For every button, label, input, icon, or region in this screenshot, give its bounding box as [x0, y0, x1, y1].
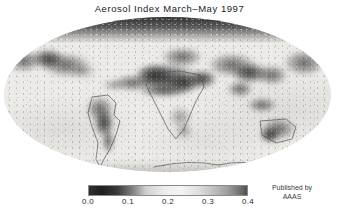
- aerosol-index-colorbar: [88, 185, 248, 196]
- colorbar-tick-0: 0.0: [82, 197, 94, 206]
- mollweide-projection-ellipse: [4, 17, 331, 172]
- colorbar-gradient: [88, 185, 248, 196]
- colorbar-tick-3: 0.3: [202, 197, 214, 206]
- colorbar-tick-2: 0.2: [162, 197, 174, 206]
- credit-line-2: AAAS: [250, 192, 334, 201]
- credit-line-1: Published by: [250, 183, 334, 192]
- coastline-outline-layer: [4, 17, 331, 172]
- colorbar-tick-1: 0.1: [122, 197, 134, 206]
- colorbar-tick-labels: 0.00.10.20.30.4: [88, 197, 248, 209]
- publisher-credit: Published by AAAS: [250, 183, 334, 201]
- world-map-panel: [4, 17, 331, 172]
- page-title: Aerosol Index March–May 1997: [0, 3, 339, 14]
